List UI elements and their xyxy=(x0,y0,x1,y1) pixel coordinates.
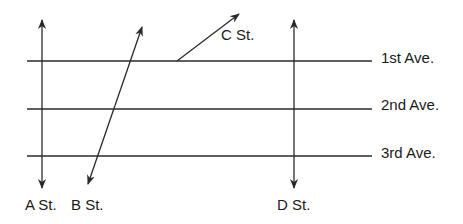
street-map-diagram: 1st Ave. 2nd Ave. 3rd Ave. A St. B St. C… xyxy=(0,0,463,224)
avenue-1st-label: 1st Ave. xyxy=(381,50,434,65)
avenue-2nd-label: 2nd Ave. xyxy=(381,97,439,112)
street-d-label: D St. xyxy=(277,197,310,212)
street-b-line xyxy=(115,27,142,106)
street-a-label: A St. xyxy=(25,197,57,212)
street-b-label: B St. xyxy=(71,197,104,212)
avenue-3rd-label: 3rd Ave. xyxy=(381,145,436,160)
street-c-label: C St. xyxy=(221,27,254,42)
street-b-line-south xyxy=(88,106,115,185)
